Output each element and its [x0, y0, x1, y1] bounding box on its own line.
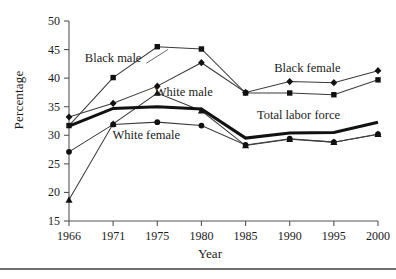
y-tick-label: 20	[48, 185, 60, 199]
chart-plot-area: 1520253035404550 19661971197519801985199…	[0, 0, 396, 266]
line-chart-svg: 1520253035404550 19661971197519801985199…	[0, 0, 396, 266]
y-tick-label: 30	[48, 128, 60, 142]
data-point-marker	[199, 123, 205, 129]
data-point-marker	[66, 149, 72, 155]
data-point-marker	[110, 100, 117, 107]
chart-figure: 1520253035404550 19661971197519801985199…	[0, 0, 396, 279]
y-tick-label: 45	[48, 43, 60, 57]
x-tick-label: 1995	[322, 229, 346, 243]
x-tick-label: 1985	[234, 229, 258, 243]
y-tick-label: 40	[48, 71, 60, 85]
x-tick-label: 1975	[145, 229, 169, 243]
x-tick-label: 1980	[189, 229, 213, 243]
data-point-marker	[287, 90, 292, 95]
data-point-marker	[110, 122, 116, 128]
data-point-marker	[199, 46, 204, 51]
x-axis-title: Year	[150, 246, 270, 262]
y-tick-label: 15	[48, 214, 60, 228]
data-point-marker	[66, 196, 73, 202]
annotation-label: White male	[155, 85, 213, 99]
data-point-marker	[155, 44, 160, 49]
data-point-marker	[375, 77, 380, 82]
y-axis-tick-labels: 1520253035404550	[48, 14, 60, 228]
x-tick-label: 1966	[57, 229, 81, 243]
data-point-marker	[375, 131, 381, 137]
x-tick-label: 2000	[366, 229, 390, 243]
y-tick-label: 35	[48, 100, 60, 114]
data-point-marker	[198, 59, 205, 66]
data-point-marker	[287, 136, 293, 142]
annotation-label: White female	[112, 128, 180, 142]
x-tick-label: 1990	[278, 229, 302, 243]
y-tick-label: 25	[48, 157, 60, 171]
chart-annotations: Black maleBlack femaleWhite maleTotal la…	[85, 50, 341, 143]
annotation-label: Black female	[274, 61, 341, 75]
data-point-marker	[331, 92, 336, 97]
data-point-marker	[375, 67, 382, 74]
data-point-marker	[66, 113, 73, 120]
data-point-marker	[243, 142, 249, 148]
data-point-marker	[286, 78, 293, 85]
data-point-marker	[154, 119, 160, 125]
data-point-marker	[331, 139, 337, 145]
x-tick-label: 1971	[101, 229, 125, 243]
data-point-marker	[330, 79, 337, 86]
data-point-marker	[110, 75, 115, 80]
y-tick-label: 50	[48, 14, 60, 28]
y-axis-title: Percentage	[11, 50, 27, 150]
annotation-label: Black male	[85, 51, 142, 65]
figure-bottom-rule	[0, 268, 396, 270]
x-axis-tick-labels: 19661971197519801985199019952000	[57, 229, 390, 243]
annotation-label: Total labor force	[257, 108, 341, 122]
